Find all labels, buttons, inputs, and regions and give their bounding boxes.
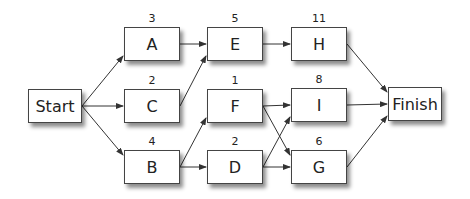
node-g: G (291, 150, 347, 184)
node-label: C (146, 97, 157, 116)
duration-label: 2 (124, 74, 180, 87)
node-e: E (207, 27, 263, 61)
duration-label: 3 (124, 12, 180, 25)
edge-f-i (263, 105, 290, 106)
edge-f-g (263, 106, 290, 155)
node-label: Start (35, 97, 74, 116)
duration-label: 2 (207, 135, 263, 148)
duration-label: 1 (207, 74, 263, 87)
edge-d-i (263, 117, 290, 167)
node-label: G (313, 158, 325, 177)
node-finish: Finish (388, 87, 442, 121)
node-b: B (124, 150, 180, 184)
node-i: I (291, 88, 347, 122)
node-label: H (313, 35, 325, 54)
edge-start-a (82, 56, 123, 106)
edge-i-finish (347, 104, 387, 105)
node-a: A (124, 27, 180, 61)
edge-b-f (180, 118, 206, 167)
edge-g-finish (347, 116, 387, 167)
duration-label: 4 (124, 135, 180, 148)
node-d: D (207, 150, 263, 184)
edge-c-e (180, 56, 206, 106)
duration-label: 6 (291, 135, 347, 148)
node-label: A (147, 35, 158, 54)
duration-label: 11 (291, 12, 347, 25)
node-label: E (230, 35, 240, 54)
edge-h-finish (347, 44, 387, 92)
node-f: F (207, 89, 263, 123)
duration-label: 5 (207, 12, 263, 25)
node-c: C (124, 89, 180, 123)
node-label: F (230, 97, 239, 116)
duration-label: 8 (291, 73, 347, 86)
node-label: I (317, 96, 322, 115)
node-label: Finish (392, 95, 438, 114)
node-label: B (147, 158, 158, 177)
node-label: D (229, 158, 241, 177)
node-h: H (291, 27, 347, 61)
node-start: Start (28, 89, 82, 123)
edge-start-b (82, 106, 123, 155)
